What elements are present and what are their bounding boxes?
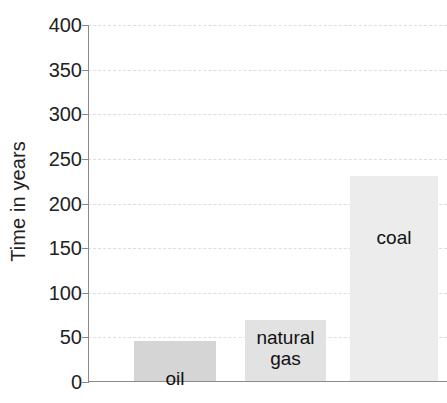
- tick-mark-200: [82, 204, 89, 205]
- bar-oil: oil: [134, 341, 216, 381]
- bar-chart: Time in years 400350300250200150100500 o…: [0, 0, 447, 403]
- y-tick-label-200: 200: [49, 192, 82, 215]
- y-tick-label-250: 250: [49, 147, 82, 170]
- tick-mark-250: [82, 159, 89, 160]
- gridline-350: [88, 70, 447, 71]
- bar-coal: coal: [350, 176, 438, 381]
- y-axis-title-text: Time in years: [7, 141, 30, 262]
- gridline-300: [88, 114, 447, 115]
- tick-mark-100: [82, 293, 89, 294]
- tick-mark-150: [82, 248, 89, 249]
- gridline-250: [88, 159, 447, 160]
- bar-label-natural-gas: natural gas: [256, 328, 314, 369]
- bar-natural-gas: natural gas: [245, 320, 326, 381]
- bar-label-coal: coal: [377, 228, 412, 249]
- tick-mark-300: [82, 114, 89, 115]
- tick-mark-400: [82, 25, 89, 26]
- y-tick-label-350: 350: [49, 58, 82, 81]
- y-axis-tick-labels: 400350300250200150100500: [36, 0, 86, 403]
- tick-mark-50: [82, 337, 89, 338]
- gridline-400: [88, 25, 447, 26]
- y-tick-label-300: 300: [49, 103, 82, 126]
- plot-area: oilnatural gascoal: [88, 25, 447, 382]
- bar-label-oil: oil: [165, 369, 184, 390]
- y-tick-label-0: 0: [71, 371, 82, 394]
- y-tick-label-400: 400: [49, 14, 82, 37]
- tick-mark-0: [82, 382, 89, 383]
- y-tick-label-50: 50: [60, 326, 82, 349]
- tick-mark-350: [82, 70, 89, 71]
- y-axis-title: Time in years: [0, 0, 36, 403]
- y-tick-label-150: 150: [49, 237, 82, 260]
- y-tick-label-100: 100: [49, 281, 82, 304]
- x-axis-line: [88, 381, 447, 382]
